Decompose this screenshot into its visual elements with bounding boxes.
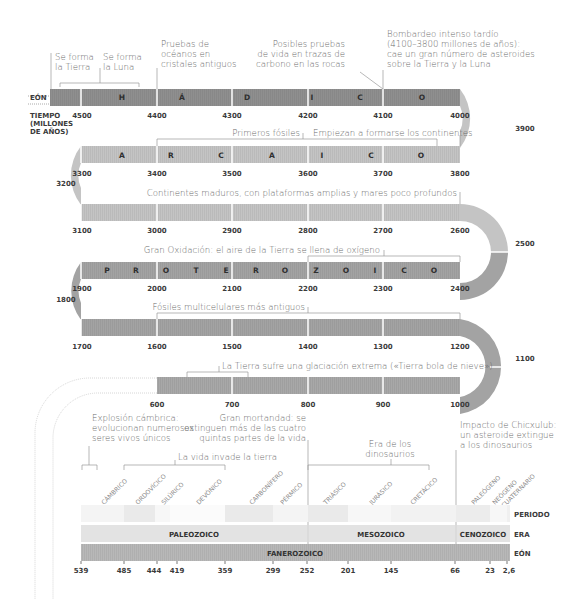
eon-letter: D xyxy=(244,93,250,102)
annotation: Gran mortandad: se xyxy=(220,413,306,423)
annotation: Gran Oxidación: el aire de la Tierra se … xyxy=(144,245,380,255)
tick-label: 3600 xyxy=(298,170,318,178)
tick-label: 1800 xyxy=(56,296,76,304)
eon-letter: T xyxy=(193,266,199,275)
time-label: DE AÑOS) xyxy=(30,127,69,136)
eon-letter: A xyxy=(269,151,275,160)
period-label: JURÁSICO xyxy=(367,480,394,507)
tick-label: 1200 xyxy=(450,343,470,351)
tick-label: 4200 xyxy=(298,112,318,120)
eon-letter: E xyxy=(223,266,228,275)
period-block-neogeno xyxy=(490,505,507,522)
tick-label: 2,6 xyxy=(503,567,516,575)
annotation: seres vivos únicos xyxy=(92,433,170,443)
tick-label: 3700 xyxy=(373,170,393,178)
eon-letter: Z xyxy=(313,266,319,275)
tick-label: 2100 xyxy=(222,285,242,293)
tick-label: 600 xyxy=(150,401,165,409)
eon-letter: C xyxy=(218,151,224,160)
eon-label: EÓN xyxy=(30,93,47,102)
tick-label: 299 xyxy=(266,567,281,575)
tick-label: 4100 xyxy=(373,112,393,120)
tick-label: 1000 xyxy=(450,401,470,409)
tick-label: 359 xyxy=(218,567,233,575)
era-bar: PALEOZOICO MESOZOICO CENOZOICO ERA xyxy=(81,525,530,542)
eon-letter: I xyxy=(321,151,324,160)
tick-label: 1700 xyxy=(72,343,92,351)
tick-label: 1400 xyxy=(298,343,318,351)
annotation: Explosión cámbrica: xyxy=(92,413,179,423)
period-block-cambrico xyxy=(81,505,124,522)
eon-letter: R xyxy=(133,266,139,275)
eon-letter: H xyxy=(119,93,125,102)
annotation: sobre la Tierra y la Luna xyxy=(387,59,491,69)
annotation: Se forma xyxy=(55,52,94,62)
tick-label: 539 xyxy=(74,567,89,575)
tick-label: 2700 xyxy=(373,227,393,235)
annotation: cae un gran número de asteroides xyxy=(387,49,535,59)
tick-label: 2600 xyxy=(450,227,470,235)
annotation: un asteroide extingue xyxy=(460,430,554,440)
annotation: océanos en xyxy=(161,49,210,59)
tick-label: 1100 xyxy=(515,355,535,363)
tick-label: 444 xyxy=(147,567,162,575)
period-bar: PERIODO xyxy=(81,505,550,522)
tick-label: 2200 xyxy=(298,285,318,293)
tick-label: 252 xyxy=(300,567,315,575)
eon-letter: O xyxy=(431,266,437,275)
tick-label: 2500 xyxy=(515,240,535,248)
tick-label: 800 xyxy=(301,401,316,409)
eon-letter: I xyxy=(374,266,377,275)
tick-label: 4000 xyxy=(450,112,470,120)
tick-label: 201 xyxy=(341,567,356,575)
annotation: Primeros fósiles xyxy=(232,128,300,138)
eon-letter: C xyxy=(401,266,407,275)
tick-label: 2000 xyxy=(147,285,167,293)
tick-label: 700 xyxy=(225,401,240,409)
period-block-devonico xyxy=(170,505,225,522)
tick-label: 2800 xyxy=(298,227,318,235)
eon-letter: I xyxy=(311,93,314,102)
eon-row-label: EÓN xyxy=(514,549,531,558)
annotation: extinguen más de las cuatro xyxy=(184,423,306,433)
tick-label: 1600 xyxy=(147,343,167,351)
tick-label: 3400 xyxy=(147,170,167,178)
period-block-ordovicico xyxy=(124,505,155,522)
tick-label: 3500 xyxy=(222,170,242,178)
annotation: de vida en trazas de xyxy=(257,49,345,59)
annotation: a los dinosaurios xyxy=(460,440,532,450)
tick-label: 419 xyxy=(170,567,185,575)
eon-letter: O xyxy=(419,93,425,102)
eon-letter: O xyxy=(343,266,349,275)
eon-letter: C xyxy=(357,93,363,102)
period-block-paleogeno xyxy=(456,505,490,522)
annotation: evolucionan numerosos xyxy=(92,423,194,433)
annotation: Pruebas de xyxy=(161,39,209,49)
period-block-cuaternario xyxy=(507,505,510,522)
period-block-cretacico xyxy=(391,505,456,522)
tick-label: 66 xyxy=(450,567,460,575)
period-block-permico xyxy=(273,505,308,522)
eon-letter: O xyxy=(282,266,288,275)
eon-letter: R xyxy=(253,266,259,275)
period-block-triasico xyxy=(308,505,348,522)
annotation: carbono en las rocas xyxy=(256,59,345,69)
period-block-silurico xyxy=(155,505,170,522)
tick-label: 3200 xyxy=(56,180,76,188)
annotation: La vida invade la tierra xyxy=(178,452,277,462)
eon-letter: C xyxy=(368,151,374,160)
annotation: Impacto de Chicxulub: xyxy=(460,420,556,430)
period-label: CÁMBRICO xyxy=(100,477,129,506)
tick-label: 4400 xyxy=(147,112,167,120)
tick-label: 2400 xyxy=(450,285,470,293)
period-label: CRETÁCICO xyxy=(409,476,439,506)
eon-letter: Á xyxy=(179,93,185,102)
tick-label: 3100 xyxy=(72,227,92,235)
tick-label: 900 xyxy=(376,401,391,409)
annotation: la Luna xyxy=(103,62,134,72)
annotation: Continentes maduros, con plataformas amp… xyxy=(147,188,457,198)
tick-label: 1300 xyxy=(373,343,393,351)
tick-label: 3300 xyxy=(72,170,92,178)
tick-label: 4500 xyxy=(72,112,92,120)
tick-label: 4300 xyxy=(222,112,242,120)
